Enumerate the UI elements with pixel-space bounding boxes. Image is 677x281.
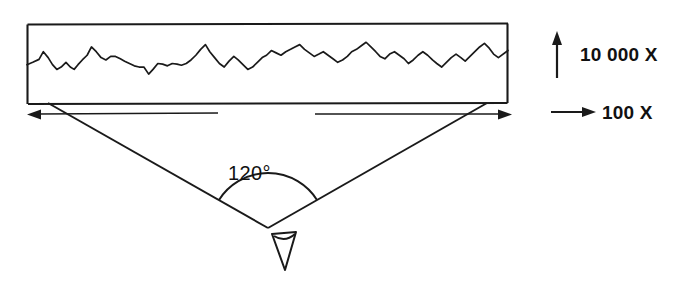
figure-container: 120° 10 000 X 100 X <box>0 0 677 281</box>
roughness-profile-trace <box>27 42 508 74</box>
frame-bottom-edge <box>28 103 508 104</box>
legend-horizontal-arrow <box>551 107 596 117</box>
eye-symbol-inner-curve <box>274 234 295 239</box>
right-sight-ray <box>268 103 487 228</box>
diagram-canvas <box>0 0 677 281</box>
profile-polyline <box>27 42 508 74</box>
legend-horizontal-arrowhead <box>582 107 596 117</box>
left-extent-arrow <box>27 110 218 120</box>
left-extent-arrowhead <box>27 110 41 120</box>
legend-vertical-arrowhead <box>552 31 562 45</box>
eye-symbol <box>272 232 296 270</box>
right-extent-arrow <box>315 110 512 120</box>
legend-vertical-magnification-label: 10 000 X <box>580 45 658 64</box>
legend-vertical-arrow <box>552 31 562 78</box>
right-extent-arrowhead <box>498 110 512 120</box>
frame-top-edge <box>28 24 509 25</box>
angle-value-label: 120° <box>228 163 271 183</box>
legend-horizontal-magnification-label: 100 X <box>602 103 653 122</box>
